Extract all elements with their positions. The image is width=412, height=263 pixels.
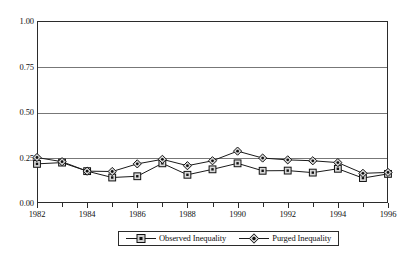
data-point[interactable] [184, 171, 191, 178]
y-axis-label-0.75: 0.75 [2, 63, 34, 72]
legend-label-purged-inequality: Purged Inequality [272, 234, 331, 243]
x-axis-label-1994: 1994 [318, 209, 358, 219]
data-point[interactable] [284, 156, 292, 164]
data-point[interactable] [234, 160, 241, 167]
x-axis-tick-1985 [112, 203, 113, 207]
x-axis-tick-1988 [187, 203, 188, 208]
x-axis-tick-1995 [363, 203, 364, 207]
x-axis-tick-1991 [263, 203, 264, 207]
x-axis-label-1992: 1992 [268, 209, 308, 219]
data-point[interactable] [309, 169, 316, 176]
x-axis-label-1996: 1996 [368, 209, 408, 219]
x-axis-labels: 19821984198619881990199219941996 [0, 209, 412, 221]
y-axis-labels: 0.000.250.500.751.00 [0, 0, 34, 263]
x-axis-tick-1984 [87, 203, 88, 208]
diamond-marker-icon [239, 233, 269, 244]
x-axis-tick-1982 [37, 203, 38, 208]
x-axis-tick-1983 [62, 203, 63, 207]
x-axis-label-1990: 1990 [218, 209, 258, 219]
x-axis-tick-1994 [338, 203, 339, 208]
data-point[interactable] [134, 173, 141, 180]
x-axis-label-1986: 1986 [117, 209, 157, 219]
data-point[interactable] [259, 154, 267, 162]
x-axis-tick-1996 [388, 203, 389, 208]
x-axis-tick-1993 [313, 203, 314, 207]
x-axis-label-1982: 1982 [17, 209, 57, 219]
data-point[interactable] [309, 157, 317, 165]
y-axis-label-1.00: 1.00 [2, 17, 34, 26]
data-point[interactable] [133, 160, 141, 168]
chart-legend: Observed Inequality Purged Inequality [118, 231, 339, 246]
x-axis-tick-1989 [213, 203, 214, 207]
legend-item-purged-inequality[interactable]: Purged Inequality [239, 233, 331, 244]
x-axis-tick-1990 [238, 203, 239, 208]
legend-label-observed-inequality: Observed Inequality [159, 234, 226, 243]
x-axis-label-1988: 1988 [167, 209, 207, 219]
x-axis-tick-1987 [162, 203, 163, 207]
data-point[interactable] [233, 147, 241, 155]
y-axis-label-0.50: 0.50 [2, 108, 34, 117]
x-axis-tick-1986 [137, 203, 138, 208]
x-axis-tick-1992 [288, 203, 289, 208]
data-point[interactable] [259, 167, 266, 174]
data-series-layer [37, 21, 388, 203]
data-point[interactable] [284, 167, 291, 174]
data-point[interactable] [183, 162, 191, 170]
x-axis-label-1984: 1984 [67, 209, 107, 219]
y-axis-label-0.00: 0.00 [2, 199, 34, 208]
inequality-line-chart: 0.000.250.500.751.00 1982198419861988199… [0, 0, 412, 263]
data-point[interactable] [209, 166, 216, 173]
data-point[interactable] [208, 157, 216, 165]
square-marker-icon [126, 233, 156, 244]
y-axis-label-0.25: 0.25 [2, 154, 34, 163]
legend-item-observed-inequality[interactable]: Observed Inequality [126, 233, 226, 244]
